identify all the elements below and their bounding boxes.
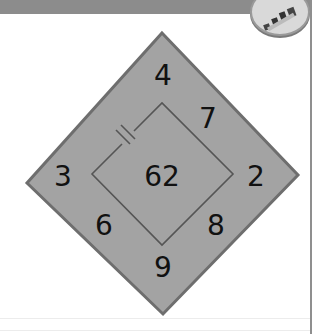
value-lower-right: 8 [207,212,225,240]
value-center: 62 [144,163,180,191]
value-right: 2 [247,163,265,191]
value-top: 4 [154,62,172,90]
value-upper-right: 7 [199,105,217,133]
value-lower-left: 6 [95,212,113,240]
value-bottom: 9 [154,254,172,282]
value-left: 3 [54,163,72,191]
